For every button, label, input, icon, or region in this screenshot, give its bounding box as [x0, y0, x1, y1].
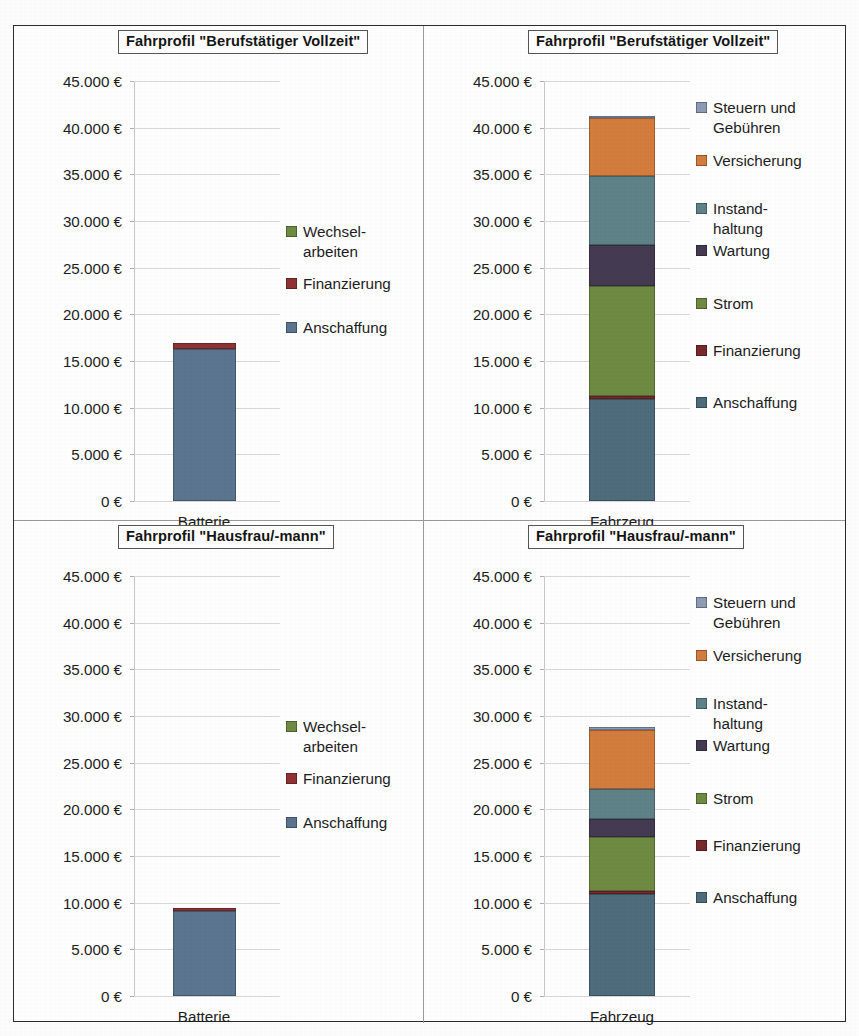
legend-swatch-icon	[286, 226, 297, 237]
legend-label: Strom	[713, 294, 754, 314]
legend-item-wartung[interactable]: Wartung	[696, 241, 770, 261]
legend-label: Versicherung	[713, 646, 802, 666]
bar-segment-strom	[589, 837, 655, 890]
legend-label: Versicherung	[713, 151, 802, 171]
legend-swatch-icon	[696, 102, 707, 113]
y-axis-tick	[130, 268, 134, 269]
chart-panel-bottom-left: Fahrprofil "Hausfrau/-mann"45.000 €40.00…	[14, 521, 424, 1016]
bar-segment-finanzierung	[173, 908, 236, 911]
y-axis-tick	[130, 903, 134, 904]
legend-swatch-icon	[696, 698, 707, 709]
y-axis-tick	[130, 763, 134, 764]
plot-area-bottom-left: 45.000 €40.000 €35.000 €30.000 €25.000 €…	[134, 576, 280, 996]
legend-item-instand[interactable]: Instand- haltung	[696, 199, 768, 239]
gridline	[544, 501, 690, 502]
gridline	[134, 501, 280, 502]
legend-item-finanzierung[interactable]: Finanzierung	[696, 341, 801, 361]
chart-title-bottom-right: Fahrprofil "Hausfrau/-mann"	[528, 525, 744, 549]
plot-area-top-left: 45.000 €40.000 €35.000 €30.000 €25.000 €…	[134, 81, 280, 501]
y-axis-tick	[540, 763, 544, 764]
legend-item-anschaffung[interactable]: Anschaffung	[286, 813, 387, 833]
y-axis-tick	[130, 576, 134, 577]
y-axis-label: 45.000 €	[20, 73, 122, 90]
legend-swatch-icon	[696, 203, 707, 214]
y-axis-label: 5.000 €	[430, 941, 532, 958]
stacked-bar-batterie	[173, 81, 236, 501]
y-axis-tick	[130, 716, 134, 717]
y-axis-label: 0 €	[20, 493, 122, 510]
legend-label: Steuern und Gebühren	[713, 593, 796, 633]
plot-area-bottom-right: 45.000 €40.000 €35.000 €30.000 €25.000 €…	[544, 576, 690, 996]
bar-segment-instandhaltung	[589, 789, 655, 819]
chart-panel-top-right: Fahrprofil "Berufstätiger Vollzeit"45.00…	[424, 26, 834, 521]
legend-item-finanzierung[interactable]: Finanzierung	[286, 274, 391, 294]
legend-item-steuern-und[interactable]: Steuern und Gebühren	[696, 593, 796, 633]
legend-label: Anschaffung	[713, 888, 797, 908]
bar-segment-anschaffung	[173, 349, 236, 501]
bar-segment-steuern-und-geb-hren	[589, 116, 655, 118]
legend-item-instand[interactable]: Instand- haltung	[696, 694, 768, 734]
y-axis-label: 25.000 €	[20, 754, 122, 771]
legend-item-finanzierung[interactable]: Finanzierung	[286, 769, 391, 789]
y-axis-label: 45.000 €	[430, 568, 532, 585]
legend-item-anschaffung[interactable]: Anschaffung	[696, 393, 797, 413]
legend-swatch-icon	[696, 155, 707, 166]
legend-item-anschaffung[interactable]: Anschaffung	[696, 888, 797, 908]
y-axis-tick	[130, 501, 134, 502]
legend-item-anschaffung[interactable]: Anschaffung	[286, 318, 387, 338]
legend-swatch-icon	[286, 817, 297, 828]
figure-page: Fahrprofil "Berufstätiger Vollzeit"45.00…	[0, 0, 859, 1036]
y-axis-label: 30.000 €	[430, 213, 532, 230]
y-axis-label: 40.000 €	[430, 119, 532, 136]
y-axis-line	[544, 576, 545, 996]
y-axis-tick	[540, 268, 544, 269]
bar-segment-anschaffung	[173, 911, 236, 996]
legend-item-wartung[interactable]: Wartung	[696, 736, 770, 756]
y-axis-tick	[540, 221, 544, 222]
legend-item-versicherung[interactable]: Versicherung	[696, 151, 802, 171]
y-axis-label: 25.000 €	[430, 259, 532, 276]
legend-item-wechsel[interactable]: Wechsel- arbeiten	[286, 222, 366, 262]
y-axis-label: 15.000 €	[430, 353, 532, 370]
bar-segment-wartung	[589, 245, 655, 286]
legend-item-finanzierung[interactable]: Finanzierung	[696, 836, 801, 856]
y-axis-tick	[130, 454, 134, 455]
y-axis-tick	[540, 949, 544, 950]
legend-label: Finanzierung	[303, 274, 391, 294]
legend-swatch-icon	[696, 892, 707, 903]
y-axis-label: 15.000 €	[20, 353, 122, 370]
legend-label: Instand- haltung	[713, 199, 768, 239]
y-axis-label: 5.000 €	[20, 446, 122, 463]
y-axis-tick	[130, 128, 134, 129]
y-axis-tick	[130, 669, 134, 670]
y-axis-label: 20.000 €	[20, 801, 122, 818]
legend-swatch-icon	[696, 740, 707, 751]
y-axis-tick	[540, 361, 544, 362]
y-axis-tick	[540, 856, 544, 857]
y-axis-line	[544, 81, 545, 501]
bar-segment-finanzierung	[173, 343, 236, 349]
legend-swatch-icon	[696, 650, 707, 661]
y-axis-label: 45.000 €	[430, 73, 532, 90]
legend-swatch-icon	[286, 278, 297, 289]
y-axis-label: 10.000 €	[20, 894, 122, 911]
y-axis-label: 10.000 €	[430, 894, 532, 911]
y-axis-tick	[540, 576, 544, 577]
legend-item-versicherung[interactable]: Versicherung	[696, 646, 802, 666]
legend-item-strom[interactable]: Strom	[696, 789, 754, 809]
stacked-bar-fahrzeug	[589, 81, 655, 501]
y-axis-label: 45.000 €	[20, 568, 122, 585]
y-axis-label: 40.000 €	[20, 614, 122, 631]
legend-item-strom[interactable]: Strom	[696, 294, 754, 314]
bar-segment-steuern-und-geb-hren	[589, 727, 655, 730]
legend-label: Anschaffung	[303, 813, 387, 833]
legend-label: Wechsel- arbeiten	[303, 222, 366, 262]
y-axis-label: 35.000 €	[430, 661, 532, 678]
y-axis-tick	[540, 314, 544, 315]
y-axis-label: 5.000 €	[20, 941, 122, 958]
bar-segment-finanzierung	[589, 891, 655, 895]
y-axis-label: 10.000 €	[20, 399, 122, 416]
legend-item-wechsel[interactable]: Wechsel- arbeiten	[286, 717, 366, 757]
legend-item-steuern-und[interactable]: Steuern und Gebühren	[696, 98, 796, 138]
bar-segment-instandhaltung	[589, 176, 655, 245]
